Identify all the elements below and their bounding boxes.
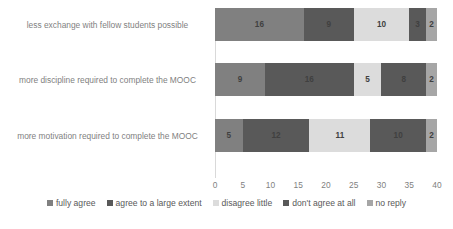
- category-label: less exchange with fellow students possi…: [6, 19, 209, 30]
- bar-segment: 16: [265, 63, 354, 96]
- bar-segment: 10: [354, 8, 410, 41]
- x-tick-label: 30: [377, 180, 386, 190]
- legend-label: agree to a large extent: [116, 198, 202, 208]
- legend-label: no reply: [376, 198, 407, 208]
- bar-segment-value: 3: [415, 20, 420, 29]
- bar-segment-value: 10: [377, 20, 386, 29]
- legend-label: don't agree at all: [292, 198, 355, 208]
- legend-label: fully agree: [56, 198, 96, 208]
- stacked-bar: 51211102: [215, 119, 437, 152]
- bar-segment: 2: [426, 63, 437, 96]
- legend-item[interactable]: no reply: [367, 198, 407, 208]
- bar-segment: 9: [304, 8, 354, 41]
- bar-segment-value: 12: [271, 131, 280, 140]
- legend-swatch-icon: [367, 200, 373, 206]
- chart-row: more motivation required to complete the…: [0, 119, 453, 152]
- category-label: more discipline required to complete the…: [6, 74, 209, 85]
- bar-segment: 8: [381, 63, 425, 96]
- bar-segment: 3: [409, 8, 426, 41]
- bar-segment-value: 8: [401, 75, 406, 84]
- legend-item[interactable]: fully agree: [47, 198, 96, 208]
- x-tick-label: 20: [321, 180, 330, 190]
- bar-segment: 2: [426, 119, 437, 152]
- legend-swatch-icon: [47, 200, 53, 206]
- legend-swatch-icon: [283, 200, 289, 206]
- bar-segment-value: 5: [365, 75, 370, 84]
- x-axis-ticks: 0510152025303540: [215, 180, 437, 192]
- x-tick-label: 15: [294, 180, 303, 190]
- legend-item[interactable]: don't agree at all: [283, 198, 355, 208]
- bar-segment: 5: [354, 63, 382, 96]
- legend-label: disagree little: [222, 198, 273, 208]
- x-tick-label: 35: [405, 180, 414, 190]
- legend-item[interactable]: disagree little: [213, 198, 273, 208]
- chart-legend: fully agreeagree to a large extentdisagr…: [0, 198, 453, 208]
- bar-segment-value: 2: [429, 131, 434, 140]
- bar-segment-value: 11: [336, 131, 345, 140]
- stacked-bar: 1691032: [215, 8, 437, 41]
- x-tick-label: 25: [349, 180, 358, 190]
- bar-segment: 2: [426, 8, 437, 41]
- bar-segment-value: 2: [429, 75, 434, 84]
- bar-segment: 16: [215, 8, 304, 41]
- stacked-bar: 916582: [215, 63, 437, 96]
- bar-segment: 11: [309, 119, 370, 152]
- bar-segment: 9: [215, 63, 265, 96]
- legend-swatch-icon: [213, 200, 219, 206]
- bar-segment-value: 5: [227, 131, 232, 140]
- bar-segment: 5: [215, 119, 243, 152]
- chart-row: less exchange with fellow students possi…: [0, 8, 453, 41]
- x-tick-label: 10: [266, 180, 275, 190]
- bar-segment-value: 9: [326, 20, 331, 29]
- x-tick-label: 5: [240, 180, 245, 190]
- bar-segment-value: 9: [238, 75, 243, 84]
- chart-row: more discipline required to complete the…: [0, 63, 453, 96]
- legend-swatch-icon: [107, 200, 113, 206]
- category-label: more motivation required to complete the…: [6, 130, 209, 141]
- bar-segment-value: 2: [429, 20, 434, 29]
- bar-segment: 10: [370, 119, 426, 152]
- stacked-bar-chart: less exchange with fellow students possi…: [0, 0, 453, 229]
- bar-segment-value: 16: [255, 20, 264, 29]
- x-tick-label: 40: [432, 180, 441, 190]
- x-tick-label: 0: [213, 180, 218, 190]
- bar-segment: 12: [243, 119, 310, 152]
- bar-segment-value: 16: [305, 75, 314, 84]
- bar-segment-value: 10: [394, 131, 403, 140]
- legend-item[interactable]: agree to a large extent: [107, 198, 202, 208]
